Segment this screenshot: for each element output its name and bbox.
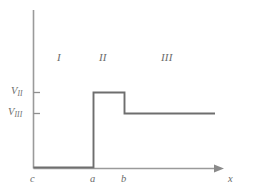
plot-canvas [0, 0, 255, 195]
x-tick-label-b: b [121, 174, 126, 185]
region-label-iii: III [161, 52, 173, 63]
y-axis-label-v3: VIII [8, 107, 23, 118]
y-axis-label-v3-sub: III [14, 110, 22, 119]
potential-step-figure: I II III VII VIII c a b x [0, 0, 255, 195]
region-label-ii: II [99, 52, 107, 63]
x-tick-label-a: a [90, 174, 95, 185]
x-axis-arrowhead [214, 164, 224, 172]
region-label-i: I [57, 52, 61, 63]
x-tick-label-c: c [30, 174, 35, 185]
potential-step-curve [34, 93, 216, 168]
y-axis-label-v2-sub: II [17, 89, 22, 98]
y-axis-label-v2: VII [11, 86, 23, 97]
x-axis-name-label: x [228, 174, 233, 185]
